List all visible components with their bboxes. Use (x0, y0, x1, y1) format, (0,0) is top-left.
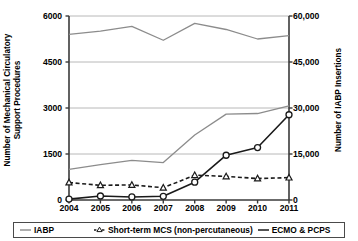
series-line-1 (69, 106, 289, 169)
data-point-marker (223, 173, 229, 179)
legend-item-ecmo-pcps: ECMO & PCPS (258, 225, 331, 235)
data-point-marker (97, 193, 103, 199)
data-point-marker (286, 174, 292, 180)
data-point-marker (66, 196, 72, 202)
data-point-marker (160, 193, 166, 199)
legend-line-gray-icon (20, 226, 31, 234)
legend-label-ecmo-pcps: ECMO & PCPS (272, 225, 331, 235)
data-point-marker (255, 175, 261, 181)
chart-container: Number of Mechanical Circulatory Support… (0, 0, 358, 241)
data-point-marker (160, 185, 166, 191)
legend-label-iabp: IABP (34, 225, 54, 235)
legend-item-iabp: IABP (20, 225, 54, 235)
legend-line-dark-icon (258, 226, 269, 234)
data-point-marker (66, 179, 72, 185)
data-point-marker (286, 112, 292, 118)
data-point-marker (255, 145, 261, 151)
data-point-marker (97, 182, 103, 188)
legend-label-short-term-mcs: Short-term MCS (non-percutaneous) (108, 225, 253, 235)
series-line-0 (69, 23, 289, 40)
legend-item-short-term-mcs: Short-term MCS (non-percutaneous) (94, 225, 253, 235)
data-point-marker (192, 179, 198, 185)
chart-legend: IABP Short-term MCS (non-percutaneous) E… (13, 222, 345, 238)
data-point-marker (129, 194, 135, 200)
plot-area (0, 0, 358, 241)
data-point-marker (223, 152, 229, 158)
legend-dashed-triangle-icon (94, 226, 105, 234)
data-point-marker (129, 182, 135, 188)
data-point-marker (192, 172, 198, 178)
